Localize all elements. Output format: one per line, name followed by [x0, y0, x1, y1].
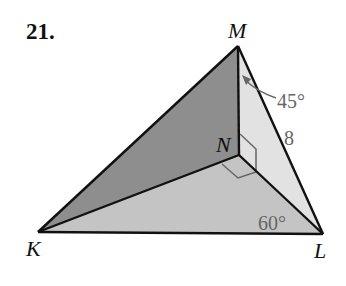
angle-label-60: 60° — [258, 212, 286, 234]
side-label-ml: 8 — [284, 127, 294, 149]
vertex-label-k: K — [25, 236, 42, 261]
angle-label-45: 45° — [277, 90, 305, 112]
problem-number: 21. — [26, 19, 55, 44]
edge-mn — [238, 46, 239, 155]
vertex-label-n: N — [215, 132, 232, 157]
vertex-label-m: M — [227, 18, 248, 43]
vertex-label-l: L — [313, 238, 326, 263]
pyramid-diagram: 21. M N K L 45° 8 60° — [0, 0, 346, 286]
